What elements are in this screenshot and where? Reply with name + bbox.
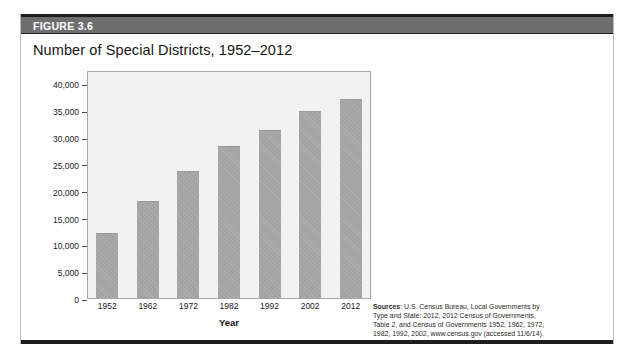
- x-axis-title: Year: [87, 317, 371, 328]
- figure-number-label: FIGURE 3.6: [33, 19, 93, 34]
- y-axis-tick: 5,000: [58, 268, 87, 278]
- x-axis-tick-label: 1972: [168, 301, 209, 311]
- y-axis-tick-label: 0: [74, 295, 79, 305]
- bar: [340, 99, 362, 299]
- y-axis: 05,00010,00015,00020,00025,00030,00035,0…: [31, 71, 87, 300]
- source-line-3: Table 2, and Census of Governments 1952,…: [373, 320, 601, 329]
- x-axis: 1952196219721982199220022012: [87, 301, 371, 317]
- y-axis-tick: 0: [74, 295, 87, 305]
- y-axis-tick-label: 10,000: [53, 241, 79, 251]
- y-axis-tick: 20,000: [53, 188, 87, 198]
- y-axis-tick-label: 15,000: [53, 215, 79, 225]
- source-line-4: 1982, 1992, 2002, www.census.gov (access…: [373, 329, 601, 338]
- bar: [137, 201, 159, 299]
- figure-header-bar: FIGURE 3.6: [21, 14, 613, 34]
- x-axis-tick-label: 1962: [128, 301, 169, 311]
- source-label: Sources: [373, 303, 400, 310]
- x-axis-tick-label: 2012: [330, 301, 371, 311]
- source-line-1-rest: : U.S. Census Bureau, Local Governments …: [400, 303, 539, 310]
- x-axis-tick-label: 1982: [209, 301, 250, 311]
- source-note: Sources: U.S. Census Bureau, Local Gover…: [373, 302, 601, 338]
- y-axis-tick: 25,000: [53, 161, 87, 171]
- figure-bottom-rule: [21, 340, 613, 344]
- y-axis-tick-label: 5,000: [58, 268, 79, 278]
- bar: [299, 111, 321, 299]
- bar: [96, 233, 118, 299]
- figure-card: FIGURE 3.6 Number of Special Districts, …: [20, 14, 614, 344]
- x-axis-tick-label: 1952: [87, 301, 128, 311]
- source-line-2: Type and State: 2012, 2012 Census of Gov…: [373, 311, 601, 320]
- y-axis-tick-label: 20,000: [53, 188, 79, 198]
- y-axis-tick-label: 30,000: [53, 134, 79, 144]
- source-line-1: Sources: U.S. Census Bureau, Local Gover…: [373, 302, 601, 311]
- y-axis-tick: 30,000: [53, 134, 87, 144]
- y-axis-tick: 35,000: [53, 107, 87, 117]
- figure-page: FIGURE 3.6 Number of Special Districts, …: [0, 0, 634, 364]
- bar: [177, 171, 199, 299]
- bar: [218, 146, 240, 299]
- y-axis-tick-label: 25,000: [53, 161, 79, 171]
- y-axis-tick-label: 40,000: [53, 80, 79, 90]
- y-axis-tick: 10,000: [53, 241, 87, 251]
- bar: [259, 130, 281, 299]
- x-axis-tick-label: 2002: [290, 301, 331, 311]
- bar-chart: 05,00010,00015,00020,00025,00030,00035,0…: [31, 68, 605, 330]
- y-axis-tick: 15,000: [53, 215, 87, 225]
- x-axis-tick-label: 1992: [249, 301, 290, 311]
- y-axis-tick-label: 35,000: [53, 107, 79, 117]
- y-axis-tick: 40,000: [53, 80, 87, 90]
- bar-series: [87, 71, 371, 299]
- figure-title: Number of Special Districts, 1952–2012: [33, 42, 292, 58]
